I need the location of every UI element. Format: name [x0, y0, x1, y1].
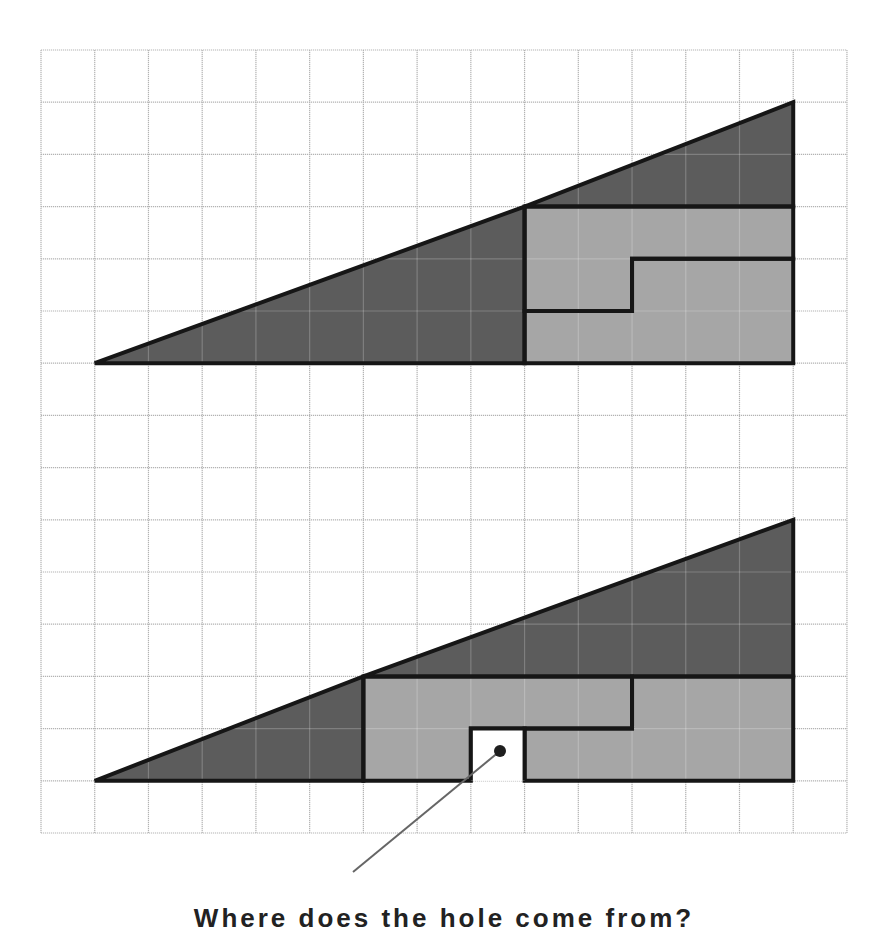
puzzle-figures [41, 50, 847, 833]
pointer-dot-icon [494, 745, 506, 757]
caption-text: Where does the hole come from? [0, 903, 888, 931]
